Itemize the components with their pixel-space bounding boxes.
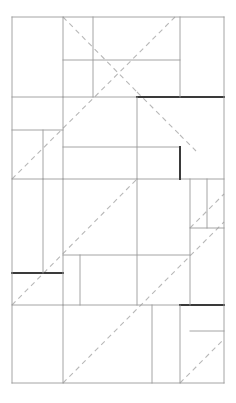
- partition-diagram: [0, 0, 236, 403]
- figure-canvas: [0, 0, 236, 403]
